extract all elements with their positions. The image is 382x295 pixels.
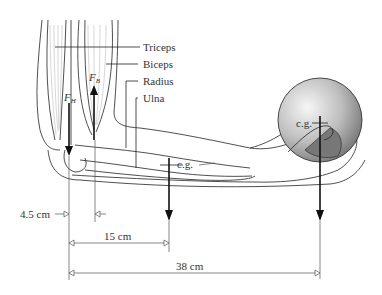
label-ulna: Ulna: [143, 92, 165, 104]
triceps-muscle: [37, 20, 66, 150]
forearm-weight-arrow: [165, 158, 173, 221]
dim-4-5cm: [55, 211, 106, 217]
force-fb-arrow: [90, 85, 98, 140]
label-triceps: Triceps: [143, 41, 176, 53]
label-cg-forearm: c.g.: [177, 158, 193, 170]
label-fh: FH: [63, 91, 77, 105]
ulna-leader: [136, 98, 138, 168]
label-4-5cm: 4.5 cm: [20, 208, 50, 220]
label-cg-ball: c.g.: [296, 117, 312, 129]
biceps-muscle: [78, 20, 140, 135]
label-15cm: 15 cm: [104, 230, 132, 242]
label-biceps: Biceps: [143, 58, 173, 70]
forearm-lever-diagram: Triceps Biceps Radius Ulna FH FB c.g. c.…: [0, 0, 382, 295]
label-38cm: 38 cm: [176, 260, 204, 272]
force-fh-arrow: [65, 103, 73, 156]
label-radius: Radius: [143, 75, 174, 87]
label-fb: FB: [88, 71, 101, 85]
